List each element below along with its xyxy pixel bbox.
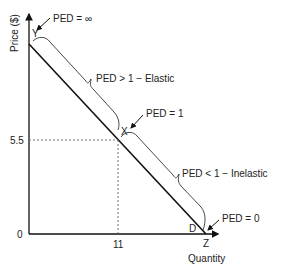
ped-one-label: PED = 1 bbox=[146, 108, 184, 119]
point-z-label: Z bbox=[203, 238, 209, 249]
y-tick-0: 0 bbox=[17, 229, 23, 240]
x-axis-label: Quantity bbox=[188, 253, 225, 264]
ped-zero-arrow bbox=[208, 220, 219, 230]
ped-inf-label: PED = ∞ bbox=[53, 13, 92, 24]
ped-inelastic-label: PED < 1 − Inelastic bbox=[182, 168, 268, 179]
point-x-label: X bbox=[121, 126, 128, 137]
y-tick-5-5: 5.5 bbox=[10, 135, 24, 146]
y-axis-label: Price ($) bbox=[9, 14, 20, 52]
ped-zero-label: PED = 0 bbox=[222, 213, 260, 224]
ped-elastic-label: PED > 1 − Elastic bbox=[96, 73, 174, 84]
curve-d-label: D bbox=[189, 223, 196, 234]
inelastic-brace bbox=[121, 132, 205, 230]
ped-one-arrow bbox=[131, 115, 143, 128]
ped-inf-arrow bbox=[37, 18, 50, 30]
elasticity-chart: Price ($) Quantity 5.5 0 11 Y X Z D PED … bbox=[0, 0, 287, 276]
x-tick-11: 11 bbox=[113, 239, 124, 250]
point-y-label: Y bbox=[32, 28, 39, 39]
